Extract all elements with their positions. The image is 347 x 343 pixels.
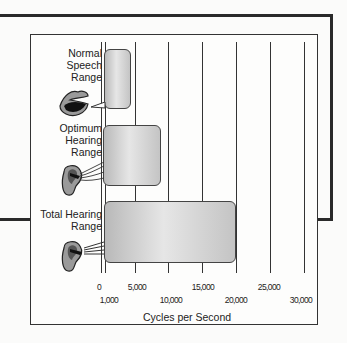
frame-bottom-edge (318, 218, 333, 221)
label-line: Speech (66, 59, 102, 71)
label-line: Optimum (59, 122, 102, 134)
bar-total-hearing-range (104, 201, 236, 263)
label-total-hearing-range: Total Hearing Range (40, 208, 102, 232)
x-axis-title: Cycles per Second (143, 311, 347, 323)
label-line: Total Hearing (40, 208, 102, 220)
label-optimum-hearing-range: Optimum Hearing Range (59, 122, 102, 158)
tick-label: 20,000 (225, 295, 247, 305)
frame-bottom-left-edge (0, 218, 31, 221)
label-line: Range (59, 146, 102, 158)
gridline-30000 (304, 42, 305, 273)
tick-label: 25,000 (258, 282, 280, 292)
tick-label: 5,000 (128, 282, 146, 292)
label-line: Range (40, 220, 102, 232)
tick-label: 30,000 (290, 295, 312, 305)
frame-top-edge (0, 14, 333, 17)
label-line: Range (66, 71, 102, 83)
bar-optimum-hearing-range (103, 125, 161, 186)
tick-label: 15,000 (192, 282, 214, 292)
frame-right-edge (330, 14, 333, 221)
mouth-icon (58, 86, 106, 120)
ear-icon (58, 162, 104, 198)
bar-normal-speech-range (104, 49, 131, 109)
label-line: Hearing (59, 134, 102, 146)
tick-label: 1,000 (100, 295, 118, 305)
ear-icon (58, 238, 104, 274)
tick-label: 10,000 (160, 295, 182, 305)
gridline-25000 (270, 42, 271, 273)
gridline-20000 (236, 42, 237, 273)
label-line: Normal (66, 47, 102, 59)
tick-label: 0 (97, 282, 101, 292)
label-normal-speech-range: Normal Speech Range (66, 47, 102, 83)
